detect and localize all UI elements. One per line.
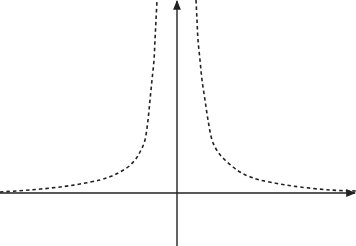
function-graph — [0, 0, 356, 246]
curve-right-branch — [196, 0, 356, 191]
curve-left-branch — [0, 0, 157, 192]
